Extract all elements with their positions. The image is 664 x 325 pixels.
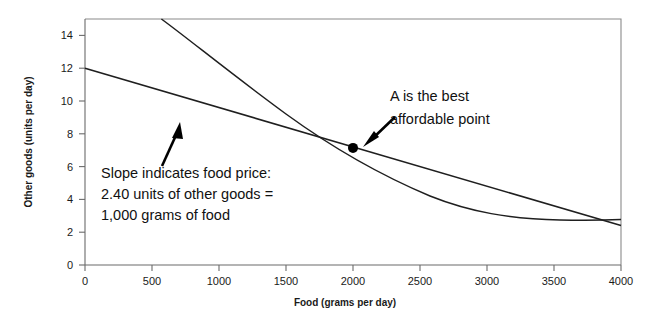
y-tick-label: 0 xyxy=(67,259,73,271)
annotation-line: affordable point xyxy=(390,111,490,127)
annotation-slope-explanation: Slope indicates food price: 2.40 units o… xyxy=(101,165,273,223)
y-tick-labels: 0 2 4 6 8 10 12 14 xyxy=(61,29,73,271)
y-tick-label: 8 xyxy=(67,128,73,140)
x-axis-title: Food (grams per day) xyxy=(294,297,396,308)
annotation-best-affordable-point: A is the best affordable point xyxy=(390,88,490,127)
annotation-line: A is the best xyxy=(390,88,469,104)
y-tick-label: 6 xyxy=(67,161,73,173)
annotation-line: Slope indicates food price: xyxy=(101,165,271,181)
annotation-line: 2.40 units of other goods = xyxy=(101,186,273,202)
annotation-line: 1,000 grams of food xyxy=(101,207,230,223)
plot-frame xyxy=(85,19,621,265)
chart-figure: 0 2 4 6 8 10 12 14 0 500 1000 1500 xyxy=(0,0,664,325)
y-axis-title: Other goods (units per day) xyxy=(23,76,34,207)
slope-arrow-icon xyxy=(162,122,183,166)
y-tick-label: 4 xyxy=(67,193,73,205)
x-tick-label: 4000 xyxy=(609,275,633,287)
x-tick-label: 500 xyxy=(143,275,161,287)
y-axis-ticks xyxy=(79,35,85,265)
x-tick-label: 1000 xyxy=(207,275,231,287)
x-tick-label: 3000 xyxy=(475,275,499,287)
x-tick-label: 0 xyxy=(82,275,88,287)
x-tick-label: 2000 xyxy=(341,275,365,287)
y-tick-label: 12 xyxy=(61,62,73,74)
y-tick-label: 14 xyxy=(61,29,73,41)
point-a-marker xyxy=(348,143,358,153)
x-tick-label: 3500 xyxy=(542,275,566,287)
y-tick-label: 2 xyxy=(67,226,73,238)
budget-indifference-chart: 0 2 4 6 8 10 12 14 0 500 1000 1500 xyxy=(0,0,664,325)
y-tick-label: 10 xyxy=(61,95,73,107)
x-axis-ticks xyxy=(85,265,621,271)
x-tick-label: 1500 xyxy=(274,275,298,287)
x-tick-labels: 0 500 1000 1500 2000 2500 3000 3500 4000 xyxy=(82,275,633,287)
x-tick-label: 2500 xyxy=(408,275,432,287)
